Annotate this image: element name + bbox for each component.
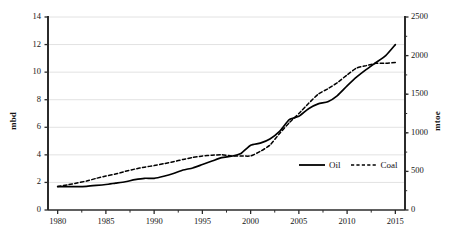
plot-area — [0, 0, 451, 248]
chart-container: mbd mtoe 02468101214 0500100015002000250… — [0, 0, 451, 248]
legend-label-oil: Oil — [329, 160, 341, 170]
legend-swatch-dashed-icon — [350, 161, 378, 169]
legend-label-coal: Coal — [381, 160, 398, 170]
legend-item-coal: Coal — [350, 160, 398, 170]
legend-item-oil: Oil — [298, 160, 341, 170]
legend-swatch-solid-icon — [298, 161, 326, 169]
chart-legend: Oil Coal — [298, 160, 398, 170]
